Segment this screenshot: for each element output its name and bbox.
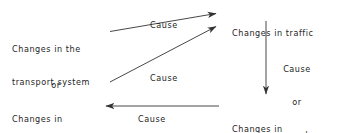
node-land-use-line1: Changes in [12, 114, 63, 125]
edge-label-traffic-to-transport-line1: Cause [275, 64, 319, 75]
edge-label-traffic-to-transport-line2: or [275, 97, 319, 108]
edge-label-transport-to-landuse: Cause [138, 114, 166, 125]
node-traffic-line1: Changes in traffic [232, 28, 314, 39]
edge-label-traffic-to-transport: Cause or need [275, 42, 319, 133]
node-land-use: Changes in land use [12, 92, 63, 133]
edge-label-traffic-to-transport-line3: need [275, 130, 319, 133]
node-transport-system-top-line1: Changes in the [12, 44, 90, 55]
edge-label-landuse-to-traffic: Cause [150, 73, 178, 84]
node-or-connector-text: or [12, 80, 100, 91]
edge-label-transport-to-traffic: Cause [150, 20, 178, 31]
diagram-canvas: Changes in the transport system or Chang… [0, 0, 337, 133]
